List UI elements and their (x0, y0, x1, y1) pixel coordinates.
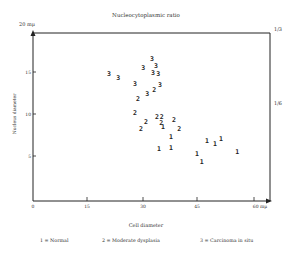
data-point-normal: 1 (205, 137, 209, 145)
svg-text:0: 0 (32, 204, 35, 209)
x-ticks (87, 197, 254, 201)
data-point-moderate-dysplasia: 2 (144, 118, 148, 126)
svg-text:30: 30 (140, 204, 146, 209)
svg-text:5: 5 (28, 154, 31, 159)
svg-text:15: 15 (25, 70, 31, 75)
data-points: 111111111122222222223333333333 (107, 55, 239, 165)
data-point-normal: 1 (157, 145, 161, 153)
legend-item-carcinoma-in-situ: 3 = Carcinoma in situ (200, 238, 253, 243)
data-point-carcinoma-in-situ: 3 (141, 64, 145, 72)
right-axis-ratio-mid: 1/6 (274, 100, 282, 106)
data-point-moderate-dysplasia: 2 (136, 95, 140, 103)
data-point-normal: 1 (213, 140, 217, 148)
y-tick-labels: 15 10 5 (25, 70, 31, 159)
svg-text:60 mμ: 60 mμ (253, 204, 267, 209)
svg-text:10: 10 (25, 112, 31, 117)
data-point-moderate-dysplasia: 2 (172, 116, 176, 124)
data-point-normal: 1 (169, 133, 173, 141)
x-axis-label: Cell diameter (129, 222, 164, 228)
scatter-chart: Nucleocytoplasmic ratio 20 mμ 1/3 1/6 15… (0, 0, 292, 255)
data-point-moderate-dysplasia: 2 (177, 125, 181, 133)
data-point-moderate-dysplasia: 2 (139, 125, 143, 133)
data-point-moderate-dysplasia: 2 (152, 86, 156, 94)
data-point-carcinoma-in-situ: 3 (158, 81, 162, 89)
data-point-normal: 1 (219, 135, 223, 143)
data-point-moderate-dysplasia: 2 (133, 109, 137, 117)
x-axis-arrow-icon (266, 199, 272, 204)
x-tick-labels: 0 15 30 45 60 mμ (32, 204, 268, 209)
data-point-moderate-dysplasia: 2 (159, 119, 163, 127)
y-axis-max-label: 20 mμ (19, 21, 36, 28)
data-point-carcinoma-in-situ: 3 (156, 70, 160, 78)
legend: 1 = Normal 2 = Moderate dysplasia 3 = Ca… (40, 238, 253, 244)
data-point-carcinoma-in-situ: 3 (145, 90, 149, 98)
y-axis-label: Nucleus diameter (12, 93, 17, 135)
svg-text:15: 15 (84, 204, 90, 209)
data-point-normal: 1 (169, 144, 173, 152)
chart-title: Nucleocytoplasmic ratio (112, 12, 181, 19)
data-point-carcinoma-in-situ: 3 (151, 69, 155, 77)
data-point-carcinoma-in-situ: 3 (107, 70, 111, 78)
data-point-normal: 1 (195, 150, 199, 158)
right-axis-ratio-top: 1/3 (274, 26, 282, 32)
legend-item-moderate-dysplasia: 2 = Moderate dysplasia (102, 238, 160, 244)
data-point-carcinoma-in-situ: 3 (116, 74, 120, 82)
data-point-carcinoma-in-situ: 3 (133, 80, 137, 88)
data-point-normal: 1 (200, 158, 204, 166)
legend-item-normal: 1 = Normal (40, 238, 69, 243)
data-point-normal: 1 (235, 148, 239, 156)
svg-text:45: 45 (194, 204, 200, 209)
